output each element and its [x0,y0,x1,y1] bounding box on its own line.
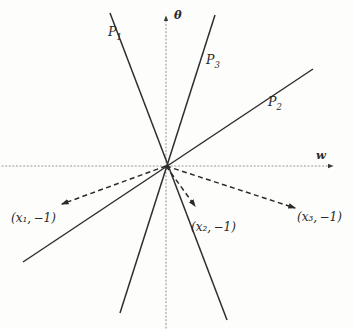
diagram-canvas [0,0,354,329]
vc-dimension-diagram: θ w P1 P3 P2 (x₁, −1) (x₂, −1) (x₃, −1) [0,0,354,329]
axis-label-w: w [316,150,326,162]
point-label-x3: (x₃, −1) [297,211,342,223]
vector-x1 [62,166,166,204]
axis-label-theta: θ [174,10,182,22]
line-label-P1: P1 [108,26,122,41]
point-label-x2: (x₂, −1) [191,221,236,233]
line-label-P2: P2 [268,96,282,111]
vector-x3 [166,166,295,208]
point-label-x1: (x₁, −1) [11,212,56,224]
line-label-P3: P3 [206,54,220,69]
line-P3 [120,15,215,313]
